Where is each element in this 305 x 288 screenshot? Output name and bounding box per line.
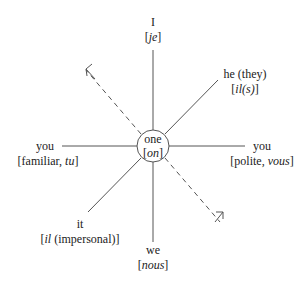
node-bottom-label: we [146,243,160,257]
node-left-label: you [36,139,54,153]
node-bottom-left-french: [il (impersonal)] [41,232,120,246]
node-top-right-french: [il(s)] [231,82,258,96]
pronoun-diagram: one [on] I [je] he (they) [il(s)] you [p… [0,0,305,288]
node-bottom-french: [nous] [138,258,169,272]
diagram-canvas: one [on] I [je] he (they) [il(s)] you [p… [0,0,305,288]
dashed-arrow-up-left [86,70,141,134]
node-top-right-label: he (they) [224,67,267,81]
spoke-top-right [165,80,218,134]
node-top-french: [je] [145,30,162,44]
dashed-arrow-down-right [165,158,220,222]
node-left-french: [familiar, tu] [18,154,79,168]
node-top-label: I [151,15,155,29]
spoke-bottom-left [88,158,141,212]
node-right-label: you [253,139,271,153]
node-right-french: [polite, vous] [230,154,293,168]
center-french: [on] [143,146,163,160]
center-label: one [144,132,161,146]
node-bottom-left-label: it [77,217,84,231]
